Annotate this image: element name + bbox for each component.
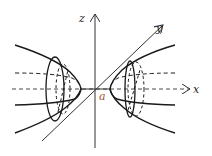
y-axis-label: y [155, 22, 163, 35]
diagram-canvas: z y x a [0, 0, 212, 156]
hyperboloid-diagram: z y x a [0, 0, 212, 156]
left-mid-dashed [15, 73, 81, 89]
right-mid-dashed [110, 73, 175, 89]
y-axis [42, 25, 163, 141]
x-axis-label: x [193, 83, 200, 96]
z-axis-label: z [78, 12, 85, 25]
vertex-label: a [99, 90, 106, 103]
right-outer-lower [110, 89, 175, 133]
